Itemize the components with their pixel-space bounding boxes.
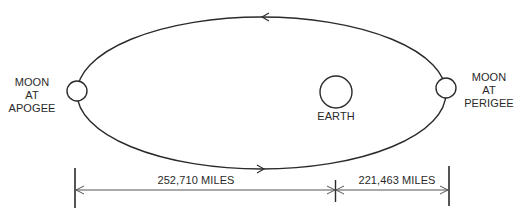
apogee-label-line-1: MOON xyxy=(8,76,56,89)
orbit-diagram xyxy=(0,0,521,220)
apogee-distance-label: 252,710 MILES xyxy=(140,174,252,187)
apogee-label-line-2: AT xyxy=(8,89,56,102)
moon-orbit-ellipse xyxy=(77,17,446,169)
moon-at-apogee-circle xyxy=(67,81,87,101)
moon-at-apogee-label: MOON AT APOGEE xyxy=(8,76,56,115)
perigee-distance-label: 221,463 MILES xyxy=(350,174,444,187)
earth-label: EARTH xyxy=(314,110,358,123)
apogee-label-line-3: APOGEE xyxy=(8,102,56,115)
moon-at-perigee-label: MOON AT PERIGEE xyxy=(463,71,515,110)
perigee-label-line-3: PERIGEE xyxy=(463,97,515,110)
earth-circle xyxy=(320,76,352,108)
dimension-lines xyxy=(75,166,449,208)
moon-at-perigee-circle xyxy=(436,78,456,98)
perigee-label-line-2: AT xyxy=(463,84,515,97)
perigee-label-line-1: MOON xyxy=(463,71,515,84)
